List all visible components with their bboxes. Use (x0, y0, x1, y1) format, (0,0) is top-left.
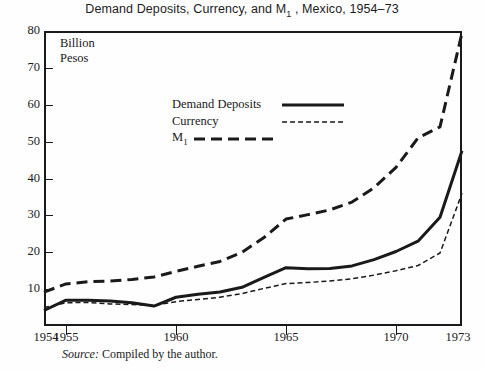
y-tick-label: 50 (12, 135, 40, 148)
x-tick-label: 1965 (274, 330, 299, 345)
x-tick-label: 1955 (54, 330, 79, 345)
x-tick-label: 1973 (446, 330, 471, 345)
legend-item-label: Currency (172, 114, 282, 129)
x-tick-label: 1960 (164, 330, 189, 345)
chart-figure: Demand Deposits, Currency, and M1 , Mexi… (0, 0, 484, 371)
legend-label-subscript: 1 (183, 137, 188, 147)
y-axis-unit-label: Billion Pesos (60, 36, 95, 66)
y-tick-label: 70 (12, 61, 40, 74)
source-text: Compiled by the author. (99, 347, 218, 361)
x-tick-label: 1970 (384, 330, 409, 345)
y-tick-label: 80 (12, 24, 40, 37)
legend-item-label: Demand Deposits (172, 97, 282, 112)
y-axis-labels: 8070605040302010 (6, 0, 40, 371)
chart-legend: Demand DepositsCurrencyM1 (172, 96, 344, 147)
y-tick-label: 20 (12, 245, 40, 258)
unit-label-line2: Pesos (60, 51, 95, 66)
y-tick-label: 10 (12, 282, 40, 295)
y-tick-label: 30 (12, 208, 40, 221)
legend-line-sample (282, 117, 344, 127)
legend-label-text: M (172, 130, 183, 144)
legend-line-sample (282, 100, 344, 110)
chart-title: Demand Deposits, Currency, and M1 , Mexi… (0, 2, 484, 19)
y-tick-label: 40 (12, 172, 40, 185)
legend-line-sample (194, 134, 274, 144)
legend-label-text: Demand Deposits (172, 97, 261, 111)
y-tick-label: 60 (12, 98, 40, 111)
plot-area-frame (44, 31, 462, 326)
legend-item: Currency (172, 113, 344, 130)
chart-title-main: Demand Deposits, Currency, and M (85, 2, 286, 16)
source-prefix: Source: (62, 347, 99, 361)
unit-label-line1: Billion (60, 36, 95, 51)
legend-item: M1 (172, 130, 344, 147)
source-note: Source: Compiled by the author. (62, 347, 218, 362)
legend-item-label: M1 (172, 130, 194, 147)
legend-item: Demand Deposits (172, 96, 344, 113)
chart-title-tail: , Mexico, 1954–73 (291, 2, 398, 16)
legend-label-text: Currency (172, 114, 219, 128)
